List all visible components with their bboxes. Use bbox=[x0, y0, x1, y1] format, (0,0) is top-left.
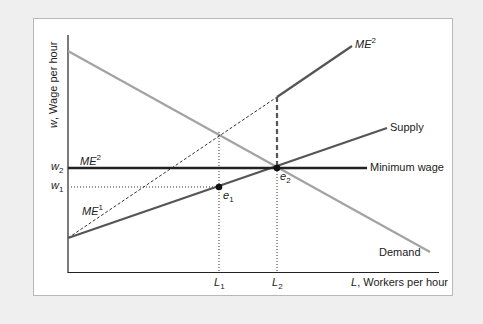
e2-label: e2 bbox=[280, 170, 291, 185]
demand-curve bbox=[68, 51, 430, 252]
y-axis-label: w, Wage per hour bbox=[47, 42, 59, 128]
w1-tick-label: w1 bbox=[51, 179, 63, 194]
demand-label: Demand bbox=[379, 246, 421, 258]
x-axis-label: L, Workers per hour bbox=[351, 276, 448, 288]
me1-label: ME1 bbox=[82, 203, 103, 217]
supply-curve bbox=[68, 128, 387, 238]
L2-tick-label: L2 bbox=[272, 276, 283, 291]
e1-point bbox=[216, 184, 223, 191]
me2-curve bbox=[277, 46, 352, 97]
minimum-wage-label: Minimum wage bbox=[370, 161, 444, 173]
L1-tick-label: L1 bbox=[214, 276, 225, 291]
me2-mid-label: ME2 bbox=[80, 153, 101, 167]
supply-label: Supply bbox=[390, 121, 424, 133]
e1-label: e1 bbox=[223, 189, 234, 204]
w2-tick-label: w2 bbox=[51, 160, 63, 175]
me2-top-label: ME2 bbox=[355, 36, 376, 50]
